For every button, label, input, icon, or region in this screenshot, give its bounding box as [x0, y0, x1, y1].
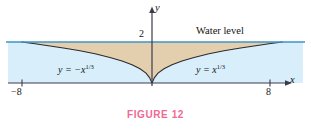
- curve-left-exponent: 1/3: [85, 63, 93, 70]
- water-level-label: Water level: [196, 25, 244, 36]
- curve-left-label-text: y = −x: [58, 64, 85, 75]
- x-tick-label-neg8: −8: [11, 86, 22, 97]
- curve-right-label-text: y = x: [196, 64, 217, 75]
- x-tick-label-8: 8: [266, 86, 271, 97]
- y-axis-label: y: [155, 2, 160, 13]
- y-tick-label-2: 2: [139, 28, 144, 39]
- curve-right-label: y = x1/3: [196, 64, 225, 75]
- x-axis-label: x: [290, 74, 295, 85]
- curve-right-exponent: 1/3: [217, 63, 225, 70]
- figure-container: y x 2 −8 8 Water level y = −x1/3 y = x1/…: [0, 0, 311, 133]
- y-axis-arrow-icon: [149, 7, 155, 14]
- curve-left-label: y = −x1/3: [58, 64, 94, 75]
- figure-caption: FIGURE 12: [0, 109, 311, 120]
